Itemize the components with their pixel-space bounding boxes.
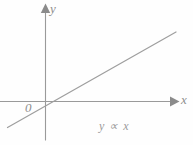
x-axis-arrowhead bbox=[170, 97, 180, 107]
proportionality-figure: y x 0 y ∝ x bbox=[0, 0, 193, 145]
relation-caption: y ∝ x bbox=[99, 120, 130, 132]
y-axis-arrowhead bbox=[41, 4, 50, 14]
proportional-line bbox=[8, 32, 177, 128]
x-axis-label: x bbox=[181, 93, 187, 106]
y-axis-label: y bbox=[50, 2, 56, 15]
origin-label: 0 bbox=[25, 101, 32, 114]
plot-canvas bbox=[0, 0, 193, 145]
